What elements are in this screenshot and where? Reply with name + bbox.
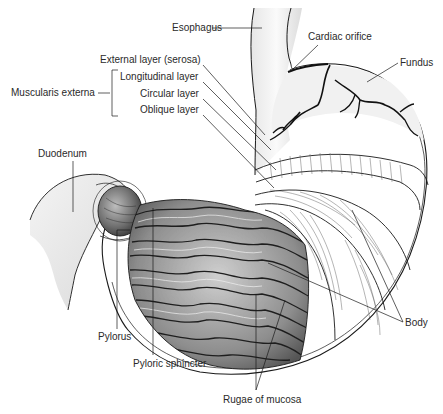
label-oblique-layer: Oblique layer — [140, 104, 199, 116]
label-body: Body — [405, 317, 428, 329]
rugae-mucosa — [128, 200, 312, 370]
fundus-region — [270, 64, 424, 140]
label-fundus: Fundus — [400, 57, 433, 69]
label-pyloric-sphincter: Pyloric sphincter — [133, 358, 206, 370]
stomach-diagram: Esophagus Cardiac orifice Fundus Externa… — [0, 0, 443, 414]
label-cardiac-orifice: Cardiac orifice — [308, 31, 372, 43]
label-longitudinal-layer: Longitudinal layer — [120, 71, 198, 83]
label-esophagus: Esophagus — [172, 22, 222, 34]
label-duodenum: Duodenum — [38, 148, 87, 160]
label-muscularis-externa: Muscularis externa — [11, 87, 95, 99]
stomach-illustration — [0, 0, 443, 414]
label-pylorus: Pylorus — [98, 331, 131, 343]
label-circular-layer: Circular layer — [140, 88, 199, 100]
label-external-layer: External layer (serosa) — [100, 54, 201, 66]
label-rugae-of-mucosa: Rugae of mucosa — [223, 394, 301, 406]
